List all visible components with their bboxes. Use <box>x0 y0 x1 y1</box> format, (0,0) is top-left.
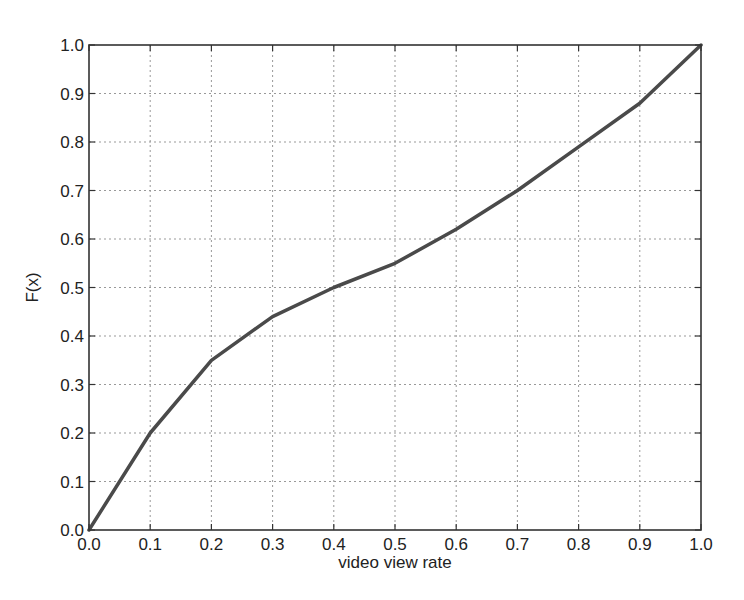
y-tick-label: 0.3 <box>60 376 84 395</box>
x-tick-label: 0.6 <box>444 535 468 554</box>
x-axis-label: video view rate <box>338 553 451 572</box>
x-tick-label: 0.4 <box>322 535 346 554</box>
y-tick-label: 0.5 <box>60 279 84 298</box>
y-tick-label: 0.8 <box>60 133 84 152</box>
y-tick-label: 0.9 <box>60 85 84 104</box>
grid-lines <box>89 45 701 530</box>
x-tick-label: 0.9 <box>628 535 652 554</box>
x-tick-label: 0.8 <box>567 535 591 554</box>
y-tick-label: 1.0 <box>60 36 84 55</box>
y-axis-label: F(x) <box>23 272 42 302</box>
y-tick-label: 0.4 <box>60 327 84 346</box>
x-tick-label: 0.5 <box>383 535 407 554</box>
x-tick-label: 0.2 <box>200 535 224 554</box>
y-tick-label: 0.2 <box>60 424 84 443</box>
cdf-chart: 0.00.10.20.30.40.50.60.70.80.91.0 0.00.1… <box>0 0 744 600</box>
x-tick-label: 0.3 <box>261 535 285 554</box>
x-tick-labels: 0.00.10.20.30.40.50.60.70.80.91.0 <box>77 535 713 554</box>
x-tick-label: 0.1 <box>138 535 162 554</box>
x-tick-label: 0.7 <box>506 535 530 554</box>
y-tick-labels: 0.00.10.20.30.40.50.60.70.80.91.0 <box>60 36 84 540</box>
y-tick-label: 0.6 <box>60 230 84 249</box>
y-tick-label: 0.7 <box>60 182 84 201</box>
x-tick-label: 1.0 <box>689 535 713 554</box>
y-tick-label: 0.1 <box>60 473 84 492</box>
y-tick-label: 0.0 <box>60 521 84 540</box>
